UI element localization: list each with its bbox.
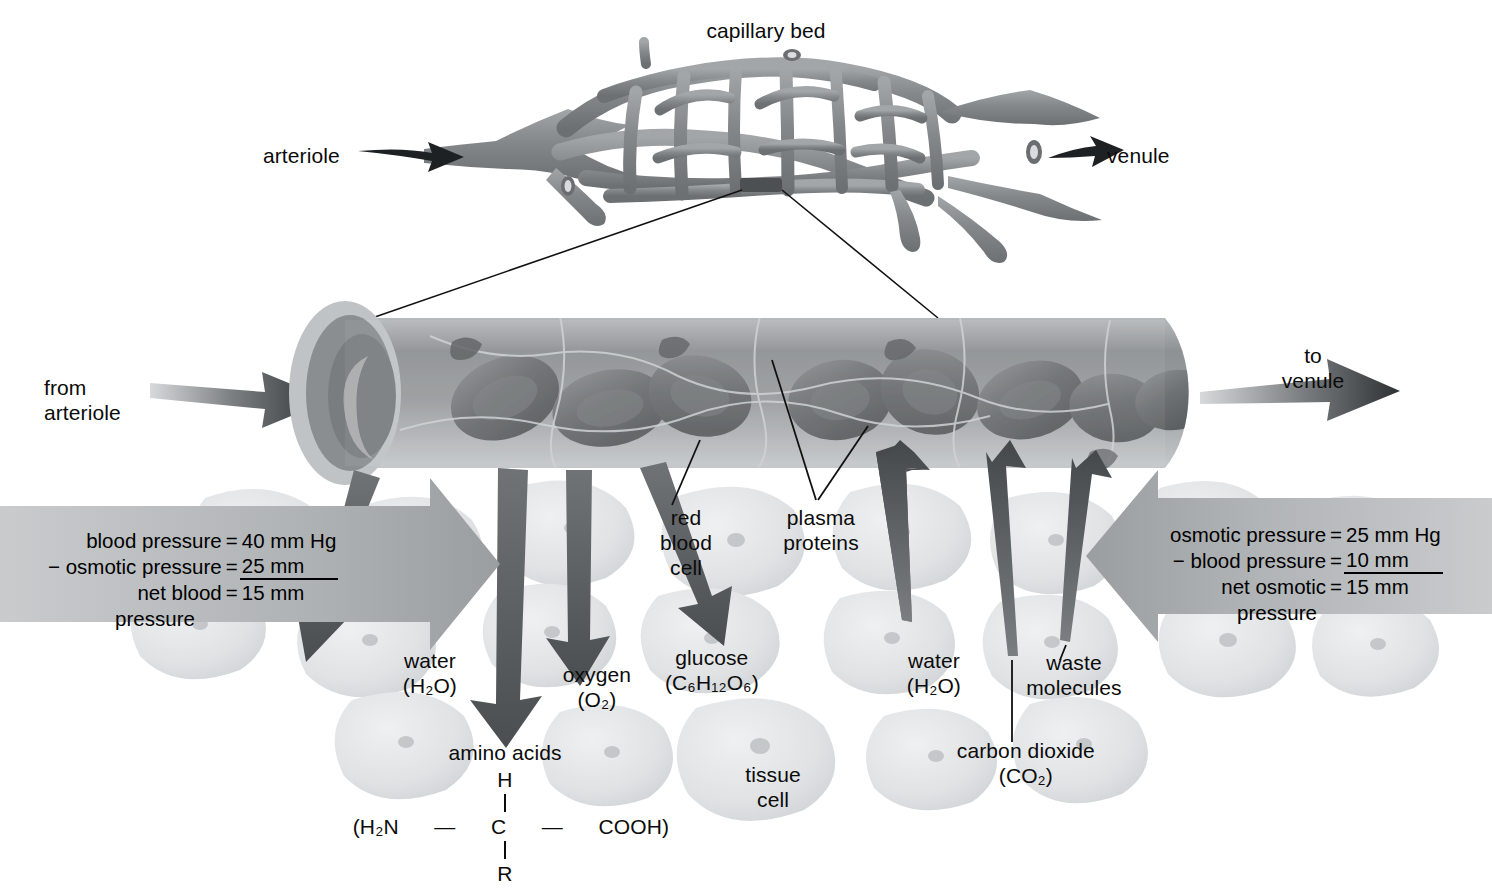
equation-equals-sign: = xyxy=(1328,522,1344,547)
text-line: carbon dioxide xyxy=(928,738,1100,763)
equation-term: osmotic pressure xyxy=(1168,522,1328,547)
equation-row: net blood=15 mm xyxy=(46,579,338,605)
magnification-leader-lines xyxy=(372,190,938,318)
equation-equals-sign: = xyxy=(1328,573,1344,599)
text-line: proteins xyxy=(766,530,876,555)
equation-equals-sign: = xyxy=(224,579,240,605)
capillary-tube xyxy=(289,301,1220,485)
capillary-bed-network xyxy=(424,40,1102,263)
arteriole-label: arteriole xyxy=(263,143,340,168)
text-line xyxy=(524,712,646,737)
equation-row: net osmotic=15 mm xyxy=(1168,573,1443,599)
text-line: COOH) xyxy=(563,814,669,839)
amino-acid-structure: amino acids H (H₂N — C — COOH) R xyxy=(370,740,640,886)
text-line: from xyxy=(44,375,121,400)
text-line xyxy=(358,698,478,723)
equation-table: blood pressure=40 mm Hg− osmotic pressur… xyxy=(46,528,338,605)
text-line: glucose xyxy=(630,645,770,670)
text-line: water xyxy=(862,648,982,673)
text-line: (H₂O) xyxy=(862,673,982,698)
text-line: plasma xyxy=(766,505,876,530)
from-arteriole-label: fromarteriole xyxy=(44,375,121,425)
text-line: to xyxy=(1268,343,1358,368)
equation-value: 15 mm xyxy=(1344,573,1443,599)
equation-value: 25 mm Hg xyxy=(1344,522,1443,547)
text-line: (H₂N xyxy=(317,814,398,839)
substance-label-oxygen-out: oxygen (O₂) xyxy=(524,662,646,737)
equation-equals-sign: = xyxy=(224,553,240,579)
equation-term: net osmotic xyxy=(1168,573,1328,599)
equation-continuation: pressure xyxy=(1168,600,1386,626)
equation-value: 25 mm xyxy=(240,553,339,579)
text-line: — xyxy=(506,814,563,839)
amino-acid-r-group: R xyxy=(370,861,640,886)
equation-equals-sign: = xyxy=(224,528,240,553)
text-line: venule xyxy=(1268,368,1358,393)
tissue-cell-label: tissuecell xyxy=(718,762,828,812)
to-venule-label: tovenule xyxy=(1268,343,1358,393)
text-line: oxygen xyxy=(524,662,646,687)
equation-equals-sign: = xyxy=(1328,547,1344,573)
text-line: (CO₂) xyxy=(928,763,1100,788)
plasma-proteins-label: plasmaproteins xyxy=(766,505,876,555)
text-line xyxy=(630,695,770,720)
text-line: (O₂) xyxy=(524,687,646,712)
text-line xyxy=(669,814,693,839)
equation-term: − osmotic pressure xyxy=(46,553,224,579)
equation-row: osmotic pressure=25 mm Hg xyxy=(1168,522,1443,547)
text-line xyxy=(928,788,1100,813)
substance-label-water-in: water (H₂O) xyxy=(862,648,982,723)
equation-term: blood pressure xyxy=(46,528,224,553)
substance-label-carbon-dioxide-in: carbon dioxide (CO₂) xyxy=(928,738,1100,813)
equation-value: 15 mm xyxy=(240,579,339,605)
text-line: cell xyxy=(640,555,732,580)
capillary-bed-title: capillary bed xyxy=(686,18,846,43)
text-line xyxy=(862,698,982,723)
diagram-artwork xyxy=(0,0,1492,889)
text-line: (C₆H₁₂O₆) xyxy=(630,670,770,695)
equation-row: blood pressure=40 mm Hg xyxy=(46,528,338,553)
equation-value: 10 mm xyxy=(1344,547,1443,573)
amino-acids-heading: amino acids xyxy=(370,740,640,765)
equation-row: − blood pressure=10 mm xyxy=(1168,547,1443,573)
net-osmotic-pressure-equation: osmotic pressure=25 mm Hg− blood pressur… xyxy=(1168,522,1443,626)
capillary-exchange-diagram: capillary bed arteriole venule fromarter… xyxy=(0,0,1492,889)
text-line: tissue xyxy=(718,762,828,787)
equation-value: 40 mm Hg xyxy=(240,528,339,553)
substance-label-water-out: water (H₂O) xyxy=(358,648,478,723)
text-line: water xyxy=(358,648,478,673)
amino-acid-top-bond xyxy=(370,792,640,814)
text-line: red xyxy=(640,505,732,530)
text-line: blood xyxy=(640,530,732,555)
text-line: arteriole xyxy=(44,400,121,425)
equation-term: − blood pressure xyxy=(1168,547,1328,573)
text-line: waste xyxy=(1000,650,1148,675)
substance-label-glucose-out: glucose (C₆H₁₂O₆) xyxy=(630,645,770,720)
amino-acid-bottom-bond xyxy=(370,839,640,861)
text-line: molecules xyxy=(1000,675,1148,700)
equation-table: osmotic pressure=25 mm Hg− blood pressur… xyxy=(1168,522,1443,599)
text-line: cell xyxy=(718,787,828,812)
equation-rows: blood pressure=40 mm Hg− osmotic pressur… xyxy=(46,528,338,605)
red-blood-cell-label: redbloodcell xyxy=(640,505,732,580)
equation-term: net blood xyxy=(46,579,224,605)
amino-acid-top-atom: H xyxy=(370,767,640,792)
equation-rows: osmotic pressure=25 mm Hg− blood pressur… xyxy=(1168,522,1443,599)
venule-label: venule xyxy=(1107,143,1169,168)
text-line: C xyxy=(455,814,506,839)
net-blood-pressure-equation: blood pressure=40 mm Hg− osmotic pressur… xyxy=(46,528,338,632)
equation-continuation: pressure xyxy=(46,606,264,632)
equation-row: − osmotic pressure=25 mm xyxy=(46,553,338,579)
substance-label-waste-molecules-in: wastemolecules xyxy=(1000,650,1148,700)
text-line: (H₂O) xyxy=(358,673,478,698)
amino-acid-backbone: (H₂N — C — COOH) xyxy=(370,814,640,839)
text-line: — xyxy=(399,814,456,839)
